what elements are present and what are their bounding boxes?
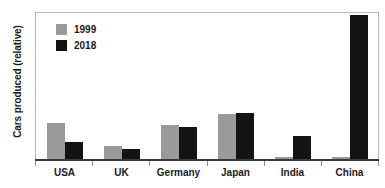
bar-india-2018 [293, 136, 311, 160]
x-axis-tick [149, 161, 150, 166]
x-axis-label-germany: Germany [150, 167, 207, 178]
bar-group-japan [207, 13, 264, 160]
x-axis-label-usa: USA [36, 167, 93, 178]
x-axis-tick [35, 161, 36, 166]
x-axis-tick [264, 161, 265, 166]
bar-group-china [321, 13, 378, 160]
bar-uk-1999 [104, 146, 122, 160]
bar-chart: Cars produced (relative) 1999 2018 USAUK… [0, 0, 385, 188]
x-axis-ticks [35, 161, 379, 166]
x-axis-label-japan: Japan [207, 167, 264, 178]
bar-germany-1999 [161, 125, 179, 160]
x-axis-tick [207, 161, 208, 166]
bar-group-germany [150, 13, 207, 160]
x-axis-labels: USAUKGermanyJapanIndiaChina [36, 167, 378, 178]
bar-group-usa [36, 13, 93, 160]
x-axis-label-uk: UK [93, 167, 150, 178]
x-axis-label-india: India [264, 167, 321, 178]
bar-japan-2018 [236, 113, 254, 160]
bar-japan-1999 [218, 114, 236, 160]
bar-usa-1999 [47, 123, 65, 160]
y-axis-title-text: Cars produced (relative) [12, 25, 23, 138]
bars-layer [36, 13, 378, 160]
bar-usa-2018 [65, 142, 83, 160]
bar-group-india [264, 13, 321, 160]
x-axis-tick [321, 161, 322, 166]
x-axis-label-china: China [321, 167, 378, 178]
bar-group-uk [93, 13, 150, 160]
y-axis-title: Cars produced (relative) [0, 0, 34, 163]
bar-china-2018 [350, 15, 368, 160]
x-axis-tick [378, 161, 379, 166]
x-axis-tick [92, 161, 93, 166]
bar-germany-2018 [179, 127, 197, 160]
